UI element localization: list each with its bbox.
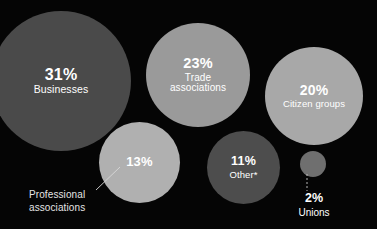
bubble-other-label: Other* [229, 170, 257, 180]
bubble-businesses-label: Businesses [34, 84, 89, 95]
bubble-citizen-groups-label: Citizen groups [283, 99, 345, 109]
callout-unions-label: Unions [290, 207, 338, 220]
bubble-chart: 31% Businesses 23% Trade associations 20… [0, 0, 377, 229]
bubble-citizen-groups-value: 20% [300, 83, 329, 98]
leader-line-unions [305, 174, 309, 192]
bubble-trade-associations-value: 23% [183, 56, 213, 72]
callout-unions: 2% Unions [290, 191, 338, 219]
bubble-unions[interactable] [300, 151, 326, 177]
bubble-trade-associations[interactable]: 23% Trade associations [146, 23, 250, 127]
bubble-businesses[interactable]: 31% Businesses [0, 11, 131, 151]
bubble-professional-associations-value: 13% [126, 155, 153, 169]
bubble-businesses-value: 31% [45, 66, 78, 83]
bubble-other-value: 11% [231, 155, 256, 169]
bubble-citizen-groups[interactable]: 20% Citizen groups [265, 47, 363, 145]
bubble-trade-associations-label-line2: associations [170, 83, 226, 94]
callout-professional-associations-line2: associations [29, 202, 85, 215]
callout-unions-value: 2% [290, 191, 338, 207]
callout-professional-associations: Professional associations [29, 189, 85, 214]
bubble-other[interactable]: 11% Other* [207, 131, 280, 204]
callout-professional-associations-line1: Professional [29, 189, 85, 202]
bubble-professional-associations[interactable]: 13% [99, 122, 180, 203]
